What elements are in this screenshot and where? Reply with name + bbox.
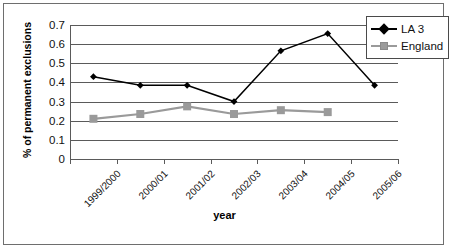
x-tick-label: 2005/06 — [370, 168, 403, 201]
x-tick-mark — [304, 159, 305, 164]
y-tick-label: 0.1 — [49, 134, 65, 146]
data-point-marker — [230, 110, 238, 118]
data-point-marker — [136, 110, 144, 118]
x-tick-mark — [351, 159, 352, 164]
series-line-la-3 — [93, 34, 374, 102]
x-tick-mark — [164, 159, 165, 164]
x-tick-label: 2002/03 — [230, 168, 263, 201]
series-layer — [70, 25, 398, 159]
x-tick-mark — [398, 159, 399, 164]
plot-area: 00.10.20.30.40.50.60.7 1999/20002000/012… — [70, 25, 398, 159]
x-tick-mark — [211, 159, 212, 164]
data-point-marker — [137, 82, 144, 89]
data-point-marker — [90, 73, 97, 80]
data-point-marker — [183, 102, 191, 110]
legend-key-diamond-icon — [371, 23, 397, 35]
x-axis-title: year — [4, 209, 445, 221]
data-point-marker — [324, 108, 332, 116]
y-tick-label: 0.4 — [49, 76, 65, 88]
legend-label-la3: LA 3 — [401, 23, 424, 35]
legend-item-la3[interactable]: LA 3 — [371, 20, 443, 37]
x-tick-label: 2003/04 — [277, 168, 310, 201]
x-tick-label: 2004/05 — [324, 168, 357, 201]
series-line-england — [93, 106, 327, 118]
x-tick-mark — [257, 159, 258, 164]
y-tick-label: 0.7 — [49, 19, 65, 31]
y-tick-label: 0.5 — [49, 57, 65, 69]
legend-item-england[interactable]: England — [371, 37, 443, 54]
y-tick-label: 0.3 — [49, 96, 65, 108]
x-tick-label: 2000/01 — [136, 168, 169, 201]
x-tick-mark — [117, 159, 118, 164]
x-tick-mark — [70, 159, 71, 164]
data-point-marker — [89, 115, 97, 123]
chart-frame: % of permanent exclusions 00.10.20.30.40… — [3, 3, 444, 245]
legend-key-square-icon — [371, 40, 397, 52]
x-tick-label: 1999/2000 — [81, 168, 122, 209]
data-point-marker — [184, 82, 191, 89]
y-axis-title: % of permanent exclusions — [21, 5, 33, 175]
y-tick-label: 0.2 — [49, 115, 65, 127]
x-tick-label: 2001/02 — [183, 168, 216, 201]
chart-legend: LA 3 England — [366, 16, 449, 59]
legend-label-england: England — [401, 40, 443, 52]
y-tick-label: 0 — [59, 153, 65, 165]
gridline — [70, 159, 398, 160]
y-tick-label: 0.6 — [49, 38, 65, 50]
data-point-marker — [277, 106, 285, 114]
